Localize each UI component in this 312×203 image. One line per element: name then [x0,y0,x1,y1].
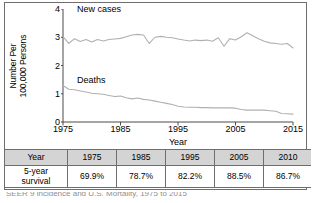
y-tick-2: 2 [55,61,60,70]
table-header-year: Year [5,150,68,166]
x-axis-title: Year [63,137,293,147]
table-header-1975: 1975 [68,150,117,166]
table-row-label-line2: survival [22,176,51,186]
y-tick-1: 1 [55,89,60,98]
survival-value-1995: 82.2% [166,166,215,188]
survival-value-1975: 69.9% [68,166,117,188]
table-row-label-line1: 5-year [24,166,48,176]
survival-value-2005: 88.5% [215,166,264,188]
series-line-deaths [63,86,293,115]
table-header-2005: 2005 [215,150,264,166]
y-axis-title-line2: 100,000 Persons [18,11,28,121]
figure-screenshot: Number Per 100,000 Persons 4 3 2 1 0 197… [0,0,311,203]
table-header-1995: 1995 [166,150,215,166]
figure-caption: SEER 9 incidence and U.S. Mortality, 197… [6,192,306,203]
table-header-1985: 1985 [117,150,166,166]
table-header-row: Year 1975 1985 1995 2005 2010 [5,150,312,166]
line-chart: Number Per 100,000 Persons 4 3 2 1 0 197… [5,3,306,150]
survival-value-2010: 86.7% [264,166,312,188]
plot-area: 4 3 2 1 0 1975 1985 1995 2005 2015 New c… [63,9,293,122]
chart-svg [61,9,297,128]
survival-table: Year 1975 1985 1995 2005 2010 5-year sur… [4,149,311,188]
y-tick-3: 3 [55,33,60,42]
y-axis-title: Number Per 100,000 Persons [8,11,38,121]
survival-value-1985: 78.7% [117,166,166,188]
y-axis-title-line1: Number Per [8,11,18,121]
figure-caption-text: SEER 9 incidence and U.S. Mortality, 197… [6,192,306,199]
table-row: 5-year survival 69.9% 78.7% 82.2% 88.5% … [5,166,312,188]
table-header-2010: 2010 [264,150,312,166]
series-line-new-cases [63,33,293,48]
figure-frame: Number Per 100,000 Persons 4 3 2 1 0 197… [4,2,307,190]
table-row-label: 5-year survival [5,166,68,188]
y-tick-4: 4 [55,5,60,14]
axis-lines [61,9,293,126]
